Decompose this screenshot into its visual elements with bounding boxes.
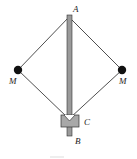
governor-diagram: A M M C B — [0, 0, 137, 159]
left-mass-ball — [14, 66, 22, 74]
label-c: C — [84, 117, 91, 127]
label-b: B — [75, 136, 81, 146]
label-right-m: M — [118, 76, 127, 86]
label-left-m: M — [8, 76, 17, 86]
upper-left-arm — [18, 17, 69, 70]
label-a: A — [72, 4, 79, 14]
lower-left-arm — [18, 70, 68, 118]
lower-right-arm — [70, 70, 122, 118]
upper-right-arm — [69, 17, 122, 70]
right-mass-ball — [118, 66, 126, 74]
